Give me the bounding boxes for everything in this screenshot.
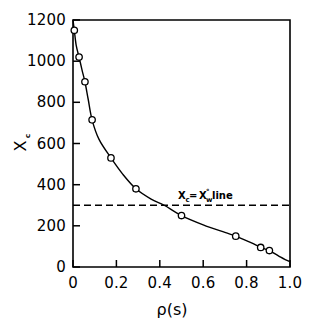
figure-container: 1200 1000 800 600 400 200 0 0 0.2 0.4 0.…	[0, 0, 316, 330]
data-point	[133, 186, 139, 192]
annot-line-word: line	[212, 190, 233, 201]
data-point	[89, 117, 95, 123]
data-point	[266, 247, 272, 253]
y-tick-label-1200: 1200	[27, 11, 66, 29]
y-axis-title-main: X	[11, 140, 30, 151]
data-point	[178, 212, 184, 218]
x-axis-ticks	[73, 260, 290, 267]
x-tick-label-0p4: 0.4	[148, 274, 172, 292]
reference-line-label: X c = X w ° line	[178, 188, 233, 204]
y-axis-title-sub: c	[24, 134, 32, 138]
data-point	[76, 54, 82, 60]
y-tick-label-200: 200	[37, 217, 66, 235]
y-tick-label-0: 0	[56, 258, 66, 276]
plot-frame	[73, 20, 290, 267]
y-tick-label-1000: 1000	[27, 52, 66, 70]
annot-x-sup-degree: °	[206, 188, 210, 196]
x-axis-title: ρ(s)	[157, 300, 188, 319]
data-curve	[73, 20, 290, 262]
chart-plot: 1200 1000 800 600 400 200 0 0 0.2 0.4 0.…	[0, 0, 316, 330]
data-point	[108, 155, 114, 161]
y-tick-label-400: 400	[37, 176, 66, 194]
y-tick-label-800: 800	[37, 93, 66, 111]
annot-equals: =	[189, 190, 197, 201]
x-axis-title-text: ρ(s)	[157, 300, 188, 319]
data-point	[233, 233, 239, 239]
y-axis-title: X c	[11, 134, 32, 152]
x-tick-label-0p8: 0.8	[234, 274, 258, 292]
data-point	[71, 27, 77, 33]
x-tick-label-0: 0	[68, 274, 78, 292]
y-tick-label-600: 600	[37, 135, 66, 153]
x-tick-label-1p0: 1.0	[278, 274, 302, 292]
data-point	[82, 79, 88, 85]
data-point	[258, 244, 264, 250]
data-markers	[71, 27, 272, 254]
x-tick-label-0p6: 0.6	[191, 274, 215, 292]
x-tick-label-0p2: 0.2	[104, 274, 128, 292]
